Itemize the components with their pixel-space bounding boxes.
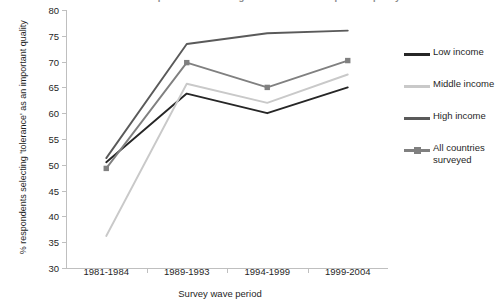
y-tick-label: 40 — [37, 211, 59, 222]
series-line-0 — [106, 87, 348, 162]
x-tick-label: 1994-1999 — [245, 266, 290, 277]
y-tick-mark — [62, 268, 66, 269]
x-tick-mark — [227, 268, 228, 273]
y-tick-label: 65 — [37, 82, 59, 93]
y-tick-label: 70 — [37, 56, 59, 67]
series-marker-3-2 — [265, 85, 270, 90]
series-marker-3-1 — [184, 60, 189, 65]
legend-line-icon — [404, 53, 430, 56]
y-tick-label: 50 — [37, 159, 59, 170]
series-line-3 — [106, 61, 348, 169]
x-tick-label: 1981-1984 — [84, 266, 129, 277]
chart-title: Trends in respondents selecting 'toleran… — [0, 0, 499, 2]
legend-swatch-icon — [404, 82, 430, 91]
series-layer — [66, 10, 388, 268]
y-tick-label: 35 — [37, 237, 59, 248]
legend-item-0[interactable]: Low income — [404, 46, 499, 63]
y-tick-label: 75 — [37, 30, 59, 41]
x-tick-mark — [308, 268, 309, 273]
legend-item-2[interactable]: High income — [404, 110, 499, 127]
legend-label: Middle income — [433, 78, 499, 90]
x-tick-label: 1989-1993 — [164, 266, 209, 277]
series-line-2 — [106, 31, 348, 158]
series-marker-3-0 — [104, 166, 109, 171]
series-marker-3-3 — [345, 58, 350, 63]
legend-label: High income — [433, 110, 499, 122]
legend-label: All countries surveyed — [433, 142, 499, 165]
x-tick-mark — [147, 268, 148, 273]
y-tick-label: 60 — [37, 108, 59, 119]
y-axis-title: % respondents selecting 'tolerance' as a… — [18, 18, 29, 256]
y-tick-label: 45 — [37, 185, 59, 196]
chart-figure: Trends in respondents selecting 'toleran… — [0, 0, 499, 308]
x-tick-label: 1999-2004 — [325, 266, 370, 277]
x-axis-title: Survey wave period — [50, 288, 390, 299]
legend-line-icon — [404, 85, 430, 88]
legend-swatch-icon — [404, 146, 430, 155]
legend-swatch-icon — [404, 50, 430, 59]
y-tick-label: 80 — [37, 5, 59, 16]
legend-label: Low income — [433, 46, 499, 58]
legend-square-marker-icon — [414, 147, 421, 154]
legend-swatch-icon — [404, 114, 430, 123]
chart-title-clipped: Trends in respondents selecting 'toleran… — [0, 0, 499, 6]
plot-area: 8075706560555045403530 — [66, 10, 388, 268]
y-tick-label: 55 — [37, 134, 59, 145]
legend-item-3[interactable]: All countries surveyed — [404, 142, 499, 159]
legend-item-1[interactable]: Middle income — [404, 78, 499, 95]
legend-line-icon — [404, 117, 430, 120]
chart-legend: Low incomeMiddle incomeHigh incomeAll co… — [404, 46, 499, 174]
y-tick-label: 30 — [37, 263, 59, 274]
